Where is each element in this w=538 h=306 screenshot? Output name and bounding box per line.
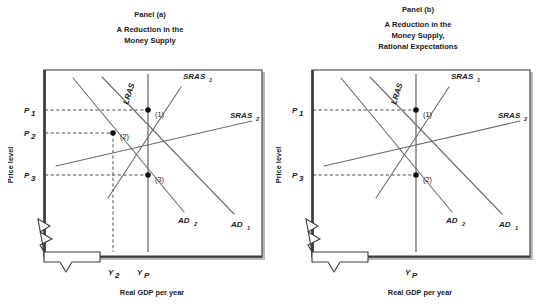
panel-a-label: Panel (a) [134, 10, 166, 19]
svg-text:3: 3 [299, 174, 304, 183]
svg-text:AD: AD [177, 216, 190, 225]
svg-text:1: 1 [247, 225, 250, 231]
panel-a-point-1-dot [145, 107, 151, 113]
panel-b-title-line-3: Rational Expectations [378, 42, 457, 51]
svg-text:P: P [292, 106, 298, 115]
svg-text:P: P [24, 106, 30, 115]
svg-text:AD: AD [498, 220, 511, 229]
panel-a-point-2-dot [110, 130, 116, 136]
panel-a-x-axis-label: Real GDP per year [120, 288, 184, 297]
svg-text:AD: AD [445, 216, 458, 225]
panel-b-point-2-dot [413, 172, 419, 178]
panel-a-y-axis-label: Price level [6, 147, 15, 184]
svg-text:1: 1 [515, 225, 518, 231]
svg-text:1: 1 [31, 109, 36, 118]
svg-text:Price level: Price level [6, 147, 15, 184]
svg-text:SRAS: SRAS [451, 72, 474, 81]
svg-text:P: P [24, 171, 30, 180]
panel-b-tick-p3: P 3 [292, 171, 304, 183]
panel-b-x-axis-label: Real GDP per year [388, 288, 452, 297]
svg-text:2: 2 [114, 271, 120, 280]
svg-text:SRAS: SRAS [183, 72, 206, 81]
panel-b-tick-p1: P 1 [292, 106, 304, 118]
panel-a-point-3-label: (3) [155, 175, 164, 184]
panel-b-y-axis-label: Price level [274, 147, 283, 184]
svg-text:P: P [24, 129, 30, 138]
panel-a-tick-p1: P 1 [24, 106, 36, 118]
panel-b-point-1-dot [413, 107, 419, 113]
svg-text:P: P [144, 271, 150, 280]
svg-text:Y: Y [405, 268, 411, 277]
svg-text:AD: AD [230, 220, 243, 229]
panel-a-point-3-dot [145, 172, 151, 178]
panel-a-tick-p3: P 3 [24, 171, 36, 183]
svg-text:1: 1 [477, 77, 480, 83]
svg-text:Y: Y [108, 268, 114, 277]
panel-b-point-2-label: (2) [423, 175, 432, 184]
svg-text:SRAS: SRAS [498, 111, 521, 120]
svg-text:SRAS: SRAS [230, 111, 253, 120]
svg-text:Y: Y [137, 268, 143, 277]
svg-text:2: 2 [30, 132, 36, 141]
panel-a-tick-p2: P 2 [24, 129, 36, 141]
panel-a-tick-y2: Y 2 [108, 268, 120, 280]
panel-b-label: Panel (b) [402, 5, 435, 14]
panel-a: Panel (a) A Reduction in the Money Suppl… [6, 10, 265, 297]
svg-text:3: 3 [31, 174, 36, 183]
panel-b-tick-yp: Y P [405, 268, 418, 280]
svg-text:1: 1 [299, 109, 304, 118]
panel-b-title-line-1: A Reduction in the [385, 20, 452, 29]
svg-text:Price level: Price level [274, 147, 283, 184]
panel-a-plot-frame [44, 70, 265, 260]
panel-a-title-line-2: Money Supply [124, 36, 176, 45]
panel-a-point-2-label: (2) [120, 132, 129, 141]
panel-a-tick-yp: Y P [137, 268, 150, 280]
panel-b: Panel (b) A Reduction in the Money Suppl… [274, 5, 533, 297]
panel-b-point-1-label: (1) [423, 110, 432, 119]
panel-a-point-1-label: (1) [155, 110, 164, 119]
panel-b-title-line-2: Money Supply, [391, 31, 444, 40]
svg-text:1: 1 [209, 77, 212, 83]
panel-a-title-line-1: A Reduction in the [117, 25, 184, 34]
panel-b-plot-frame [312, 70, 533, 260]
svg-text:P: P [412, 271, 418, 280]
svg-text:P: P [292, 171, 298, 180]
figure-container: Panel (a) A Reduction in the Money Suppl… [0, 0, 538, 306]
